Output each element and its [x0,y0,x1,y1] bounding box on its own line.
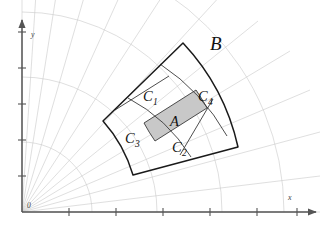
grid-ray [22,176,320,212]
grid-ray [22,21,258,212]
label-c2-letter: C [172,139,182,155]
label-c4-letter: C [198,88,208,104]
label-c2: C 2 [172,139,187,158]
label-c1: C 1 [143,88,158,107]
label-c3: C 3 [125,130,140,149]
label-c1-subscript: 1 [153,97,158,107]
label-b: B [210,33,222,54]
polar-sector-figure: B A C 1 C 2 C 3 C 4 x [0,0,327,232]
figure-canvas: B A C 1 C 2 C 3 C 4 x [0,0,327,232]
y-axis-label: y [30,30,35,39]
grid-ray [22,90,310,212]
origin-label: 0 [27,201,31,210]
grid-ray [22,0,62,212]
x-axis-label: x [287,193,292,202]
label-c4-subscript: 4 [208,97,213,107]
label-c1-letter: C [143,88,153,104]
label-c3-letter: C [125,130,135,146]
label-a: A [169,113,179,129]
label-c2-subscript: 2 [182,148,187,158]
grid-arc [22,142,92,212]
label-c3-subscript: 3 [134,139,140,149]
